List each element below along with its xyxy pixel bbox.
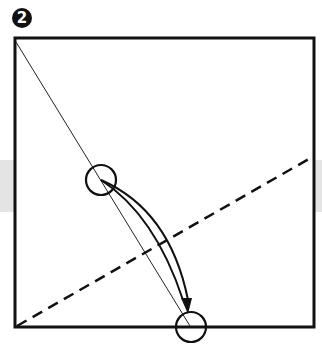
folding-diagram	[0, 0, 322, 355]
